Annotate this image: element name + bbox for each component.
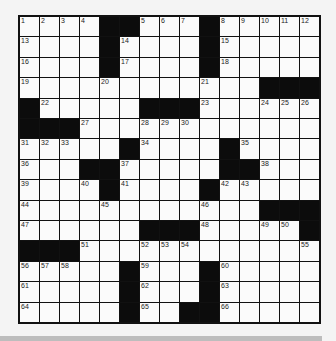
grid-cell[interactable]: 34 bbox=[140, 139, 159, 158]
grid-cell[interactable] bbox=[300, 37, 319, 56]
grid-cell[interactable]: 56 bbox=[20, 262, 39, 281]
grid-cell[interactable]: 41 bbox=[120, 180, 139, 199]
grid-cell[interactable]: 24 bbox=[260, 99, 279, 118]
grid-cell[interactable]: 42 bbox=[220, 180, 239, 199]
grid-cell[interactable]: 5 bbox=[140, 17, 159, 36]
grid-cell[interactable] bbox=[260, 282, 279, 301]
grid-cell[interactable] bbox=[200, 119, 219, 138]
grid-cell[interactable] bbox=[200, 160, 219, 179]
grid-cell[interactable]: 21 bbox=[200, 78, 219, 97]
grid-cell[interactable] bbox=[280, 262, 299, 281]
grid-cell[interactable] bbox=[220, 99, 239, 118]
grid-cell[interactable] bbox=[180, 58, 199, 77]
grid-cell[interactable] bbox=[280, 139, 299, 158]
grid-cell[interactable]: 52 bbox=[140, 241, 159, 260]
grid-cell[interactable] bbox=[240, 37, 259, 56]
grid-cell[interactable] bbox=[220, 119, 239, 138]
grid-cell[interactable]: 53 bbox=[160, 241, 179, 260]
grid-cell[interactable]: 54 bbox=[180, 241, 199, 260]
grid-cell[interactable] bbox=[260, 119, 279, 138]
grid-cell[interactable] bbox=[280, 282, 299, 301]
grid-cell[interactable]: 28 bbox=[140, 119, 159, 138]
grid-cell[interactable] bbox=[80, 78, 99, 97]
grid-cell[interactable]: 19 bbox=[20, 78, 39, 97]
grid-cell[interactable]: 6 bbox=[160, 17, 179, 36]
grid-cell[interactable]: 15 bbox=[220, 37, 239, 56]
grid-cell[interactable] bbox=[280, 241, 299, 260]
grid-cell[interactable] bbox=[220, 201, 239, 220]
grid-cell[interactable]: 64 bbox=[20, 303, 39, 322]
grid-cell[interactable]: 44 bbox=[20, 201, 39, 220]
grid-cell[interactable]: 22 bbox=[40, 99, 59, 118]
grid-cell[interactable]: 17 bbox=[120, 58, 139, 77]
grid-cell[interactable] bbox=[40, 78, 59, 97]
grid-cell[interactable] bbox=[300, 282, 319, 301]
grid-cell[interactable] bbox=[40, 160, 59, 179]
grid-cell[interactable] bbox=[240, 262, 259, 281]
grid-cell[interactable]: 47 bbox=[20, 221, 39, 240]
grid-cell[interactable] bbox=[60, 180, 79, 199]
grid-cell[interactable] bbox=[60, 201, 79, 220]
grid-cell[interactable] bbox=[60, 37, 79, 56]
grid-cell[interactable]: 23 bbox=[200, 99, 219, 118]
grid-cell[interactable] bbox=[280, 180, 299, 199]
grid-cell[interactable]: 60 bbox=[220, 262, 239, 281]
grid-cell[interactable] bbox=[220, 241, 239, 260]
grid-cell[interactable] bbox=[240, 241, 259, 260]
grid-cell[interactable]: 57 bbox=[40, 262, 59, 281]
grid-cell[interactable]: 14 bbox=[120, 37, 139, 56]
grid-cell[interactable] bbox=[180, 37, 199, 56]
grid-cell[interactable] bbox=[180, 78, 199, 97]
grid-cell[interactable] bbox=[180, 180, 199, 199]
grid-cell[interactable] bbox=[300, 119, 319, 138]
grid-cell[interactable]: 29 bbox=[160, 119, 179, 138]
grid-cell[interactable] bbox=[140, 58, 159, 77]
grid-cell[interactable]: 50 bbox=[280, 221, 299, 240]
grid-cell[interactable] bbox=[60, 282, 79, 301]
grid-cell[interactable] bbox=[40, 180, 59, 199]
grid-cell[interactable] bbox=[160, 201, 179, 220]
grid-cell[interactable]: 1 bbox=[20, 17, 39, 36]
grid-cell[interactable]: 18 bbox=[220, 58, 239, 77]
grid-cell[interactable] bbox=[160, 37, 179, 56]
grid-cell[interactable]: 20 bbox=[100, 78, 119, 97]
grid-cell[interactable] bbox=[40, 58, 59, 77]
grid-cell[interactable]: 7 bbox=[180, 17, 199, 36]
grid-cell[interactable] bbox=[240, 282, 259, 301]
grid-cell[interactable] bbox=[240, 201, 259, 220]
grid-cell[interactable]: 2 bbox=[40, 17, 59, 36]
grid-cell[interactable] bbox=[220, 78, 239, 97]
grid-cell[interactable] bbox=[260, 58, 279, 77]
grid-cell[interactable] bbox=[80, 139, 99, 158]
grid-cell[interactable] bbox=[80, 58, 99, 77]
grid-cell[interactable]: 12 bbox=[300, 17, 319, 36]
grid-cell[interactable]: 32 bbox=[40, 139, 59, 158]
grid-cell[interactable]: 58 bbox=[60, 262, 79, 281]
grid-cell[interactable] bbox=[180, 282, 199, 301]
grid-cell[interactable] bbox=[260, 139, 279, 158]
grid-cell[interactable] bbox=[300, 262, 319, 281]
grid-cell[interactable]: 49 bbox=[260, 221, 279, 240]
grid-cell[interactable] bbox=[280, 303, 299, 322]
grid-cell[interactable] bbox=[80, 99, 99, 118]
grid-cell[interactable]: 40 bbox=[80, 180, 99, 199]
grid-cell[interactable] bbox=[100, 303, 119, 322]
grid-cell[interactable]: 48 bbox=[200, 221, 219, 240]
grid-cell[interactable]: 63 bbox=[220, 282, 239, 301]
grid-cell[interactable] bbox=[80, 303, 99, 322]
grid-cell[interactable] bbox=[60, 303, 79, 322]
grid-cell[interactable] bbox=[200, 241, 219, 260]
grid-cell[interactable] bbox=[40, 201, 59, 220]
grid-cell[interactable] bbox=[140, 160, 159, 179]
grid-cell[interactable] bbox=[160, 303, 179, 322]
grid-cell[interactable]: 27 bbox=[80, 119, 99, 138]
grid-cell[interactable] bbox=[260, 37, 279, 56]
grid-cell[interactable]: 55 bbox=[300, 241, 319, 260]
grid-cell[interactable] bbox=[40, 303, 59, 322]
grid-cell[interactable] bbox=[160, 282, 179, 301]
grid-cell[interactable] bbox=[240, 78, 259, 97]
grid-cell[interactable] bbox=[180, 160, 199, 179]
grid-cell[interactable] bbox=[160, 262, 179, 281]
grid-cell[interactable] bbox=[260, 180, 279, 199]
grid-cell[interactable] bbox=[160, 58, 179, 77]
